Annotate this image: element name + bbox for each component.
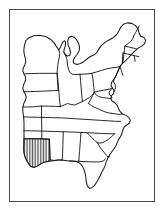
border-newyork-newjersey [120,66,123,75]
map-border-frame [9,9,155,202]
border-connecticut-rhodeisland [134,56,135,62]
us-east-map[interactable] [10,10,154,201]
figure-container: Black-and-white outline map of the easte… [0,0,164,214]
border-mississippi-louisiana-east [49,139,50,160]
state-louisiana-highlight[interactable] [24,139,50,168]
